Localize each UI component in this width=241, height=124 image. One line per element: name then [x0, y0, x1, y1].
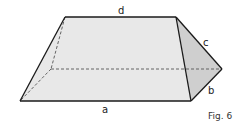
- label-d: d: [118, 5, 124, 16]
- prism-diagram: d c b a Fig. 6: [0, 0, 241, 124]
- front-face: [20, 17, 191, 101]
- figure-caption: Fig. 6: [208, 111, 232, 121]
- label-b: b: [208, 85, 214, 96]
- label-c: c: [203, 37, 209, 48]
- label-a: a: [102, 104, 108, 115]
